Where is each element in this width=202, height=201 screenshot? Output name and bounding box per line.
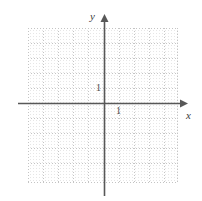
y-axis-label: y [90,11,95,22]
x-axis-unit-tick-label: 1 [116,106,121,116]
y-axis-arrowhead [101,14,109,22]
y-axis-unit-tick-label: 1 [96,83,101,93]
coordinate-plane-svg [0,0,202,201]
grid-dot-field [28,28,178,183]
x-axis-arrowhead [180,100,188,108]
coordinate-plane-figure: y x 1 1 [0,0,202,201]
x-axis-label: x [186,110,191,121]
